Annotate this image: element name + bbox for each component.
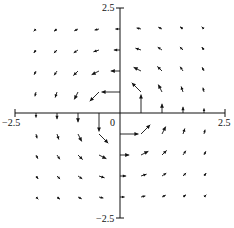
vector-arrow [158, 27, 162, 29]
vector-arrow [203, 151, 205, 155]
vector-arrow [35, 196, 38, 199]
origin-label: 0 [110, 117, 115, 128]
vector-arrow [34, 28, 37, 31]
vector-arrow [57, 155, 60, 159]
vector-arrow [204, 173, 207, 176]
vector-arrow [114, 48, 120, 51]
vector-arrow [55, 113, 58, 119]
vector-arrow [162, 173, 166, 176]
vector-arrow [181, 86, 184, 92]
vector-arrow [74, 92, 78, 99]
vector-arrow [120, 174, 126, 177]
vector-arrow [57, 197, 60, 200]
vector-arrow [99, 134, 108, 143]
vector-arrow [202, 67, 204, 71]
vector-arrow [158, 47, 162, 50]
vector-arrow [132, 83, 141, 92]
vector-field-plot: −2.5 2.5 2.5 −2.5 0 [0, 0, 234, 228]
vector-arrow [134, 67, 141, 71]
vector-arrow [183, 195, 186, 198]
vector-arrow [180, 47, 183, 50]
vector-arrow [180, 67, 183, 71]
vector-arrow [141, 174, 147, 177]
vector-arrow [181, 107, 184, 113]
vector-arrow [54, 50, 57, 53]
vector-arrow [139, 95, 143, 113]
vector-arrow [180, 27, 183, 30]
vector-arrow [158, 85, 162, 92]
vector-arrow [202, 47, 205, 50]
vector-arrow [99, 175, 105, 178]
vector-arrow [76, 113, 80, 122]
vector-arrow [99, 196, 103, 199]
vector-arrow [162, 195, 166, 197]
x-min-label: −2.5 [2, 117, 20, 128]
vector-arrow [35, 134, 38, 138]
vector-arrow [97, 113, 101, 131]
vector-arrow [115, 28, 120, 31]
vector-arrow [74, 50, 78, 53]
vector-arrow [102, 90, 120, 94]
vector-arrow [99, 155, 106, 159]
vector-arrow [120, 196, 125, 199]
vector-arrow [141, 151, 148, 155]
vector-arrow [92, 71, 99, 75]
vector-arrow [111, 69, 120, 73]
vector-arrow [135, 48, 141, 51]
vector-arrow [93, 49, 99, 52]
vector-arrow [73, 71, 78, 76]
vector-arrow [141, 125, 150, 134]
vector-arrow [162, 127, 166, 134]
vector-arrow [78, 176, 82, 179]
vector-arrow [35, 113, 38, 118]
vector-arrow [36, 176, 39, 179]
vector-arrow [182, 128, 185, 134]
vector-arrow [160, 104, 164, 113]
vector-arrow [141, 195, 145, 198]
vector-arrow [78, 155, 83, 160]
vector-arrow [202, 88, 205, 92]
vector-arrow [74, 28, 78, 30]
vector-arrow [203, 195, 206, 198]
vector-arrow [54, 71, 57, 75]
vector-arrow [162, 150, 167, 155]
vector-arrow [78, 196, 82, 198]
vector-arrow [54, 29, 57, 32]
vector-arrow [95, 28, 99, 31]
vector-arrow [34, 50, 37, 53]
x-max-label: 2.5 [218, 117, 231, 128]
vector-arrow [35, 155, 37, 159]
vector-arrow [203, 108, 206, 113]
vector-arrow [56, 134, 59, 140]
vector-arrow [90, 92, 99, 101]
vector-arrow [57, 176, 60, 179]
y-min-label: −2.5 [96, 213, 114, 224]
vector-arrow [55, 92, 58, 98]
vector-arrow [120, 153, 129, 157]
vector-arrow [137, 27, 141, 30]
vector-arrow [78, 134, 82, 141]
axes [15, 8, 225, 218]
vector-arrow [34, 71, 36, 75]
vector-arrow [202, 27, 205, 30]
vector-arrow [120, 132, 138, 136]
y-max-label: 2.5 [102, 2, 115, 13]
vector-arrow [183, 173, 186, 176]
vector-arrow [203, 130, 206, 134]
vector-arrow [183, 151, 186, 155]
vector-arrow [34, 92, 37, 96]
vector-arrow [157, 66, 162, 71]
